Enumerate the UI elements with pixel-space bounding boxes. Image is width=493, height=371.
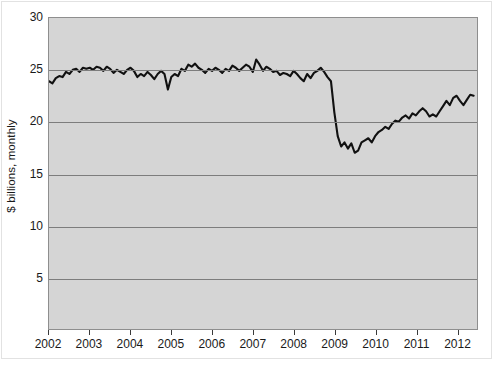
x-tick-mark <box>335 330 336 335</box>
y-tick-label: 30 <box>30 10 43 24</box>
y-axis-label-text: $ billions, monthly <box>5 119 17 212</box>
x-tick-label: 2004 <box>117 337 144 351</box>
y-axis-label: $ billions, monthly <box>0 0 22 331</box>
plot-area <box>48 17 478 330</box>
x-tick-mark <box>253 330 254 335</box>
line-series <box>49 18 477 329</box>
x-tick-mark <box>294 330 295 335</box>
y-tick-label: 5 <box>36 271 43 285</box>
y-tick-label: 10 <box>30 219 43 233</box>
gridline <box>49 122 477 123</box>
x-axis-ticks <box>48 330 478 336</box>
chart-figure: $ billions, monthly 51015202530 20022003… <box>0 0 493 371</box>
x-tick-label: 2003 <box>76 337 103 351</box>
gridline <box>49 70 477 71</box>
x-tick-label: 2005 <box>157 337 184 351</box>
y-tick-label: 20 <box>30 114 43 128</box>
x-tick-mark <box>89 330 90 335</box>
x-tick-mark <box>417 330 418 335</box>
gridline <box>49 227 477 228</box>
y-tick-label: 15 <box>30 167 43 181</box>
gridline <box>49 279 477 280</box>
x-tick-label: 2008 <box>280 337 307 351</box>
x-tick-mark <box>458 330 459 335</box>
series-line <box>49 59 474 152</box>
x-tick-mark <box>376 330 377 335</box>
x-tick-mark <box>130 330 131 335</box>
x-tick-mark <box>212 330 213 335</box>
y-axis-tick-labels: 51015202530 <box>20 0 46 331</box>
gridline <box>49 175 477 176</box>
x-tick-mark <box>171 330 172 335</box>
x-tick-mark <box>48 330 49 335</box>
x-tick-label: 2009 <box>321 337 348 351</box>
x-tick-label: 2011 <box>404 337 430 351</box>
y-tick-label: 25 <box>30 62 43 76</box>
x-axis-tick-labels: 2002200320042005200620072008200920102011… <box>0 337 493 357</box>
x-tick-label: 2007 <box>239 337 266 351</box>
x-tick-label: 2012 <box>444 337 471 351</box>
x-tick-label: 2010 <box>362 337 389 351</box>
x-tick-label: 2002 <box>35 337 62 351</box>
x-tick-label: 2006 <box>198 337 225 351</box>
